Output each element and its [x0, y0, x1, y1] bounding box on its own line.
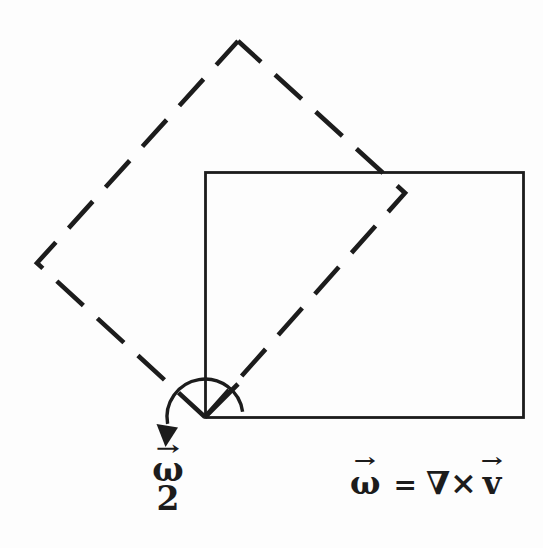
solid-rectangle [206, 173, 524, 418]
omega-vector-arrow-icon: → [127, 441, 208, 456]
figure-canvas: → ω 2 → ω = ∇ × → v [0, 0, 543, 548]
cross-product-symbol: × [450, 464, 477, 502]
omega-over-two-label: → ω 2 [140, 441, 196, 514]
velocity-vector-arrow-icon: → [481, 451, 503, 470]
vorticity-equation: → ω = ∇ × → v [350, 464, 501, 502]
fraction-denominator: 2 [140, 483, 196, 514]
velocity-vector: → v [483, 464, 502, 502]
omega-vector: → ω [350, 464, 380, 502]
dashed-rectangle-left-edges [37, 41, 238, 417]
equals-sign: = [393, 468, 416, 501]
omega-vector-arrow-icon: → [354, 451, 376, 470]
nabla-symbol: ∇ [426, 464, 450, 502]
dashed-rectangle-right-edges [205, 41, 405, 417]
